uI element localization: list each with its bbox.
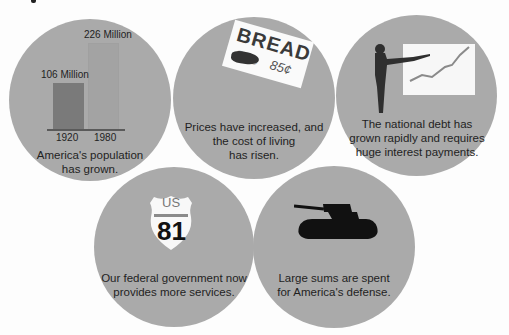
caption-line: huge interest payments. bbox=[340, 145, 494, 159]
population-caption: America's population has grown. bbox=[15, 148, 165, 176]
bar-1920-value-label: 106 Million bbox=[41, 69, 89, 80]
caption-line: grown rapidly and requires bbox=[340, 131, 494, 145]
caption-line: Large sums are spent bbox=[258, 271, 410, 285]
shield-us-label: US bbox=[162, 195, 180, 210]
bar-1980-value-label: 226 Million bbox=[84, 29, 132, 40]
prices-caption: Prices have increased, and the cost of l… bbox=[178, 120, 330, 162]
debt-caption: The national debt has grown rapidly and … bbox=[340, 117, 494, 159]
defense-caption: Large sums are spent for America's defen… bbox=[258, 271, 410, 299]
caption-line: Prices have increased, and bbox=[178, 120, 330, 134]
presenter-chart-icon bbox=[370, 35, 480, 115]
shield-route-number: 81 bbox=[157, 216, 186, 247]
bar-1980 bbox=[88, 43, 119, 130]
tank-icon bbox=[294, 202, 382, 242]
defense-circle bbox=[253, 166, 415, 328]
caption-line: The national debt has bbox=[340, 117, 494, 131]
bar-1920 bbox=[53, 83, 84, 130]
services-caption: Our federal government now provides more… bbox=[98, 271, 250, 299]
x-tick-1920: 1920 bbox=[56, 132, 78, 143]
caption-line: Our federal government now bbox=[98, 271, 250, 285]
caption-line: has risen. bbox=[178, 148, 330, 162]
chart-baseline bbox=[47, 129, 125, 131]
caption-line: for America's defense. bbox=[258, 285, 410, 299]
caption-line: provides more services. bbox=[98, 285, 250, 299]
caption-line: America's population bbox=[15, 148, 165, 162]
caption-line: the cost of living bbox=[178, 134, 330, 148]
x-tick-1980: 1980 bbox=[94, 132, 116, 143]
title-fragment bbox=[31, 0, 36, 3]
